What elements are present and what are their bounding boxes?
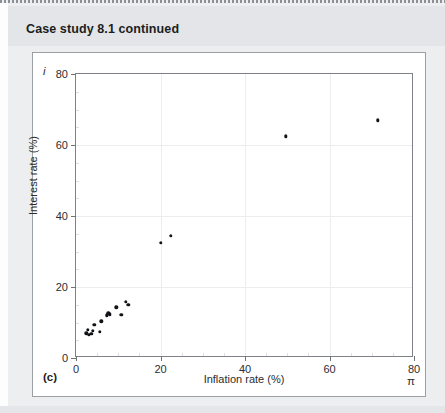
figure-card: i π Interest rate (%) Inflation rate (%)… bbox=[32, 52, 426, 397]
x-axis-tick-label: 20 bbox=[154, 363, 166, 375]
x-axis-minor-tick bbox=[287, 353, 288, 356]
y-axis-minor-tick bbox=[76, 340, 79, 341]
x-axis-minor-tick bbox=[203, 353, 204, 356]
x-axis-minor-tick bbox=[118, 353, 119, 356]
y-axis-variable-symbol: i bbox=[43, 65, 46, 77]
scatter-point bbox=[120, 313, 123, 316]
x-axis-tick-mark bbox=[245, 356, 246, 361]
y-axis-tick-label: 20 bbox=[56, 281, 68, 293]
x-axis-tick-mark bbox=[414, 356, 415, 361]
y-axis-minor-tick bbox=[76, 305, 79, 306]
page-left-margin-strip bbox=[0, 3, 8, 413]
x-axis-minor-tick bbox=[372, 353, 373, 356]
x-axis-tick-label: 40 bbox=[239, 363, 251, 375]
page-background: Case study 8.1 continued i π Interest ra… bbox=[0, 0, 445, 413]
y-axis-tick-label: 0 bbox=[62, 352, 68, 364]
scatter-point bbox=[92, 323, 95, 326]
page-top-dotted-border bbox=[0, 0, 445, 3]
page-title: Case study 8.1 continued bbox=[26, 22, 179, 36]
gridline-vertical bbox=[245, 74, 246, 356]
scatter-point bbox=[86, 328, 89, 331]
y-axis-minor-tick bbox=[76, 234, 79, 235]
y-axis-minor-tick bbox=[76, 252, 79, 253]
gridline-vertical bbox=[161, 74, 162, 356]
x-axis-minor-tick bbox=[97, 353, 98, 356]
y-axis-tick-mark bbox=[71, 74, 76, 75]
y-axis-minor-tick bbox=[76, 198, 79, 199]
gridline-vertical bbox=[330, 74, 331, 356]
x-axis-minor-tick bbox=[308, 353, 309, 356]
scatter-point bbox=[114, 306, 117, 309]
y-axis-tick-label: 60 bbox=[56, 139, 68, 151]
x-axis-tick-mark bbox=[330, 356, 331, 361]
scatter-point bbox=[98, 330, 101, 333]
scatter-point bbox=[159, 241, 162, 244]
y-axis-tick-mark bbox=[71, 145, 76, 146]
y-axis-minor-tick bbox=[76, 127, 79, 128]
x-axis-tick-mark bbox=[161, 356, 162, 361]
scatter-point bbox=[108, 313, 111, 316]
y-axis-tick-mark bbox=[71, 287, 76, 288]
scatter-point bbox=[376, 118, 379, 121]
panel-label: (c) bbox=[43, 371, 57, 383]
x-axis-tick-mark bbox=[76, 356, 77, 361]
gridline-horizontal bbox=[76, 216, 412, 217]
scatter-point bbox=[100, 320, 103, 323]
x-axis-minor-tick bbox=[182, 353, 183, 356]
y-axis-tick-mark bbox=[71, 216, 76, 217]
x-axis-minor-tick bbox=[224, 353, 225, 356]
scatter-plot-area: 020406080 020406080 bbox=[75, 73, 413, 357]
y-axis-minor-tick bbox=[76, 110, 79, 111]
y-axis-tick-label: 80 bbox=[56, 68, 68, 80]
scatter-point bbox=[127, 303, 130, 306]
y-axis-minor-tick bbox=[76, 269, 79, 270]
scatter-point bbox=[284, 134, 287, 137]
x-axis-tick-label: 0 bbox=[73, 363, 79, 375]
scatter-point bbox=[91, 329, 94, 332]
x-axis-minor-tick bbox=[266, 353, 267, 356]
x-axis-tick-label: 80 bbox=[408, 363, 420, 375]
y-axis-tick-label: 40 bbox=[56, 210, 68, 222]
y-axis-minor-tick bbox=[76, 163, 79, 164]
page-bottom-margin-strip bbox=[0, 406, 445, 413]
gridline-horizontal bbox=[76, 287, 412, 288]
x-axis-tick-label: 60 bbox=[323, 363, 335, 375]
y-axis-title: Interest rate (%) bbox=[27, 136, 39, 215]
y-axis-minor-tick bbox=[76, 92, 79, 93]
x-axis-minor-tick bbox=[393, 353, 394, 356]
case-study-header-band: Case study 8.1 continued bbox=[8, 6, 445, 46]
x-axis-minor-tick bbox=[139, 353, 140, 356]
gridline-horizontal bbox=[76, 145, 412, 146]
x-axis-minor-tick bbox=[351, 353, 352, 356]
y-axis-minor-tick bbox=[76, 181, 79, 182]
scatter-point bbox=[169, 234, 172, 237]
y-axis-minor-tick bbox=[76, 323, 79, 324]
